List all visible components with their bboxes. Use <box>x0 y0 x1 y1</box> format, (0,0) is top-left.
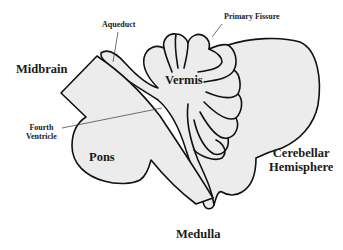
fourth-ventricle-label: Fourth Ventricle <box>26 124 57 142</box>
medulla-label: Medulla <box>176 228 220 242</box>
fourth-ventricle-label-line2: Ventricle <box>26 133 57 142</box>
cerebellar-hemisphere-label-line2: Hemisphere <box>269 161 333 175</box>
primary-fissure-label: Primary Fissure <box>224 13 280 22</box>
pons-label: Pons <box>89 151 115 165</box>
cerebellar-hemisphere-label-line1: Cerebellar <box>269 147 333 161</box>
vermis-label: Vermis <box>165 74 203 88</box>
midbrain-label: Midbrain <box>16 63 67 77</box>
primary-fissure-leader <box>212 24 222 37</box>
aqueduct-label: Aqueduct <box>102 21 135 30</box>
cerebellar-hemisphere-label: Cerebellar Hemisphere <box>269 147 333 175</box>
